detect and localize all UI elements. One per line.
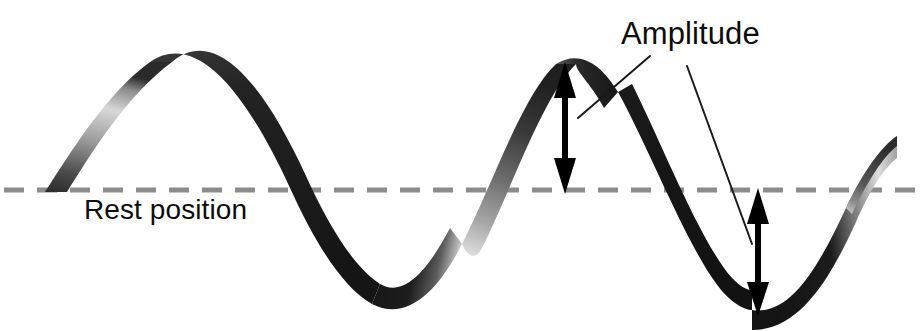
leader-line-to-trough-arrow xyxy=(687,66,752,244)
arrow-head-up xyxy=(747,188,769,224)
wave-segment-trough-1 xyxy=(372,228,462,309)
amplitude-label: Amplitude xyxy=(621,17,760,51)
rest-position-label: Rest position xyxy=(84,194,247,225)
wave-diagram-canvas xyxy=(0,0,922,331)
wave-segment-rise-1 xyxy=(45,62,172,192)
wave-segment-rise-3 xyxy=(846,136,897,214)
wave-segment-fall-1 xyxy=(150,51,380,304)
wave-segment-fall-2 xyxy=(618,84,752,310)
wave-amplitude-diagram: Amplitude Rest position xyxy=(0,0,922,331)
